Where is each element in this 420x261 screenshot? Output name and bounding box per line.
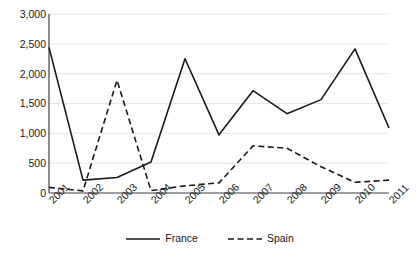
legend-label: Spain [267,233,294,244]
legend-item-spain[interactable]: Spain [228,233,294,244]
legend: France Spain [0,233,420,244]
legend-swatch-solid-icon [126,235,160,243]
legend-item-france[interactable]: France [126,233,198,244]
gridlines [49,14,389,163]
series-line-france [49,47,389,180]
legend-swatch-dashed-icon [228,235,262,243]
line-chart: 3,000 2,500 2,000 1,500 1,000 500 0 2001… [0,0,420,261]
legend-label: France [165,233,198,244]
plot-canvas [0,0,420,261]
